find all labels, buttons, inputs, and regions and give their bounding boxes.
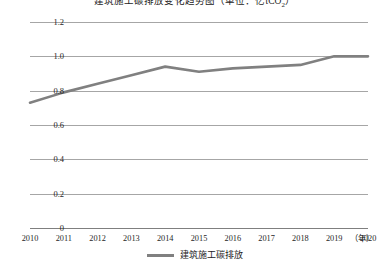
x-axis-tick-2013: 2013 <box>114 234 148 243</box>
y-axis-tick-0.8: 0.8 <box>40 87 64 96</box>
chart-title-tail: ） <box>285 0 295 6</box>
x-axis-tick-2014: 2014 <box>148 234 182 243</box>
y-axis-tick-0.2: 0.2 <box>40 190 64 199</box>
x-axis-unit-label: （年） <box>350 234 374 243</box>
x-axis-tick-2019: 2019 <box>317 234 351 243</box>
x-axis-tick-2016: 2016 <box>216 234 250 243</box>
x-axis-tick-2010: 2010 <box>13 234 47 243</box>
plot-area <box>30 22 368 228</box>
x-axis-tick-2017: 2017 <box>250 234 284 243</box>
x-axis-tick-2018: 2018 <box>283 234 317 243</box>
x-axis-tick-2011: 2011 <box>47 234 81 243</box>
y-axis-tick-0: 0 <box>40 224 64 233</box>
x-axis-tick-2012: 2012 <box>81 234 115 243</box>
legend-label: 建筑施工碳排放 <box>180 250 243 260</box>
y-axis-tick-0.6: 0.6 <box>40 121 64 130</box>
series-line-建筑施工碳排放 <box>30 56 368 102</box>
x-axis-tick-2015: 2015 <box>182 234 216 243</box>
line-chart: 建筑施工碳排放变化趋势图（单位：亿tCO2） 00.20.40.60.81.01… <box>0 0 389 271</box>
chart-title: 建筑施工碳排放变化趋势图（单位：亿tCO2） <box>0 0 389 11</box>
y-axis-tick-1.2: 1.2 <box>40 18 64 27</box>
y-axis-tick-0.4: 0.4 <box>40 155 64 164</box>
legend-swatch-line <box>147 254 174 257</box>
chart-title-main: 建筑施工碳排放变化趋势图（单位：亿tCO <box>94 0 282 6</box>
chart-legend: 建筑施工碳排放 <box>0 250 389 260</box>
series-line-layer <box>30 22 368 228</box>
y-axis-tick-1.0: 1.0 <box>40 52 64 61</box>
gridline-0 <box>30 228 368 229</box>
